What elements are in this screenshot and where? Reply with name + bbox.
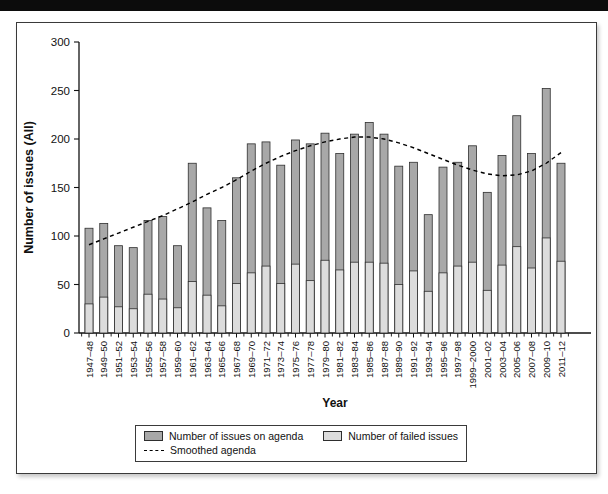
failed-bar <box>85 304 93 333</box>
y-tick-label: 0 <box>64 327 70 339</box>
x-tick-label: 1981–82 <box>334 341 345 378</box>
x-axis-title: Year <box>322 396 348 410</box>
legend-row-1: Number of issues on agenda Number of fai… <box>144 430 458 442</box>
failed-bar <box>351 262 359 333</box>
legend-row-2: Smoothed agenda <box>144 444 458 456</box>
x-tick-label: 2005–06 <box>511 341 522 378</box>
y-tick-label: 50 <box>57 279 70 291</box>
smoothed-line-swatch-icon <box>144 450 164 451</box>
failed-bar <box>218 306 226 333</box>
failed-bar <box>277 284 285 333</box>
x-tick-label: 1975–76 <box>290 341 301 378</box>
y-tick-label: 300 <box>51 36 70 48</box>
failed-bar <box>247 273 255 333</box>
failed-bar <box>306 281 314 333</box>
x-tick-label: 1977–78 <box>305 341 316 378</box>
failed-bar <box>188 282 196 333</box>
failed-bar <box>380 263 388 333</box>
failed-bar <box>542 238 550 333</box>
x-tick-label: 1989–90 <box>393 341 404 378</box>
agenda-bar-swatch-icon <box>144 431 163 441</box>
x-tick-label: 1955–56 <box>143 341 154 378</box>
failed-bar <box>454 266 462 333</box>
legend-smoothed-label: Smoothed agenda <box>170 444 256 456</box>
failed-bar <box>557 261 565 333</box>
x-tick-label: 1993–94 <box>423 341 434 378</box>
legend-agenda-label: Number of issues on agenda <box>169 430 303 442</box>
x-tick-label: 1957–58 <box>157 341 168 378</box>
stacked-bar-chart: 0501001502002503001947–481949–501951–521… <box>17 23 596 473</box>
failed-bar <box>483 290 491 333</box>
x-tick-label: 1949–50 <box>98 341 109 378</box>
x-tick-label: 2011–12 <box>556 341 567 377</box>
y-tick-label: 200 <box>51 133 70 145</box>
x-tick-label: 1999–2000 <box>467 341 478 389</box>
x-tick-label: 1969–70 <box>246 341 257 378</box>
y-axis-title: Number of issues (All) <box>22 121 36 254</box>
failed-bar <box>233 284 241 333</box>
y-tick-label: 250 <box>51 85 70 97</box>
failed-bar <box>321 260 329 333</box>
x-tick-label: 1947–48 <box>84 341 95 378</box>
failed-bar <box>498 265 506 333</box>
x-tick-label: 1963–64 <box>202 341 213 378</box>
x-tick-label: 1971–72 <box>261 341 272 378</box>
failed-bar <box>174 308 182 333</box>
failed-bar <box>292 264 300 333</box>
x-tick-label: 1987–88 <box>379 341 390 378</box>
top-banner <box>0 0 608 11</box>
x-tick-label: 1967–68 <box>231 341 242 378</box>
x-tick-label: 1961–62 <box>187 341 198 378</box>
x-tick-label: 1959–60 <box>172 341 183 378</box>
failed-bar <box>439 273 447 333</box>
x-tick-label: 2007–08 <box>526 341 537 378</box>
legend-box: Number of issues on agenda Number of fai… <box>135 425 467 462</box>
y-tick-label: 150 <box>51 182 70 194</box>
x-tick-label: 2003–04 <box>497 341 508 378</box>
failed-bar <box>336 270 344 333</box>
failed-bar <box>262 266 270 333</box>
failed-bar <box>424 291 432 333</box>
failed-bar <box>469 262 477 333</box>
x-tick-label: 1991–92 <box>408 341 419 378</box>
x-tick-label: 2001–02 <box>482 341 493 378</box>
failed-bar <box>528 268 536 333</box>
x-tick-label: 2009–10 <box>541 341 552 378</box>
y-tick-label: 100 <box>51 230 70 242</box>
failed-bar <box>410 271 418 333</box>
x-tick-label: 1979–80 <box>320 341 331 378</box>
x-tick-label: 1997–98 <box>452 341 463 378</box>
x-tick-label: 1951–52 <box>113 341 124 378</box>
page: 0501001502002503001947–481949–501951–521… <box>0 0 608 494</box>
failed-bar <box>115 307 123 333</box>
x-tick-label: 1973–74 <box>275 341 286 378</box>
x-tick-label: 1995–96 <box>438 341 449 378</box>
failed-bar <box>129 309 137 333</box>
failed-bar <box>203 295 211 333</box>
failed-bar <box>159 299 167 333</box>
failed-bar <box>365 262 373 333</box>
failed-bar-swatch-icon <box>323 431 342 441</box>
failed-bar <box>144 294 152 333</box>
x-tick-label: 1953–54 <box>128 341 139 378</box>
x-tick-label: 1965–66 <box>216 341 227 378</box>
x-tick-label: 1985–86 <box>364 341 375 378</box>
failed-bar <box>513 247 521 333</box>
failed-bar <box>395 285 403 334</box>
legend-failed-label: Number of failed issues <box>348 430 458 442</box>
chart-panel: 0501001502002503001947–481949–501951–521… <box>16 22 597 474</box>
x-tick-label: 1983–84 <box>349 341 360 378</box>
failed-bar <box>100 297 108 333</box>
